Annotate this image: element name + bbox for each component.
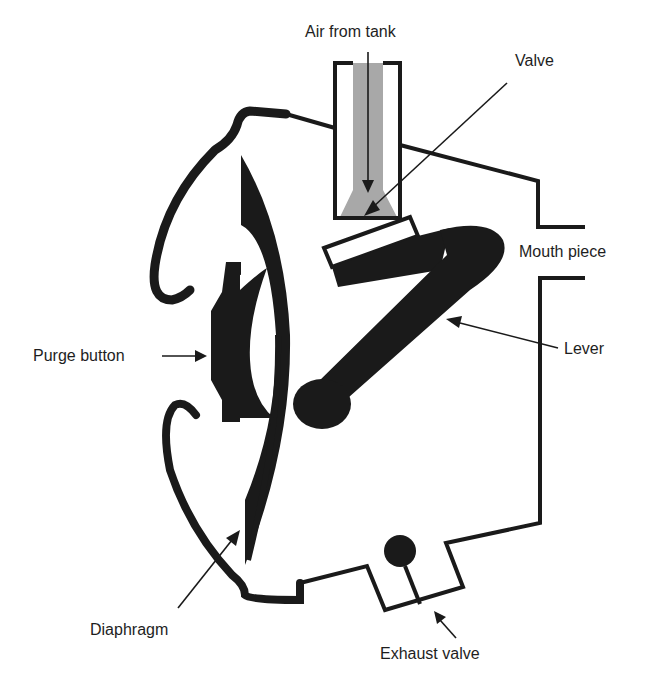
label-diaphragm: Diaphragm xyxy=(90,622,168,638)
housing-shell-top xyxy=(154,111,286,300)
label-mouth-piece: Mouth piece xyxy=(519,244,606,260)
label-purge-button: Purge button xyxy=(33,348,125,364)
purge-button xyxy=(211,262,274,422)
label-lever: Lever xyxy=(564,341,604,357)
label-exhaust-valve: Exhaust valve xyxy=(380,646,480,662)
exhaust-valve xyxy=(384,535,420,604)
regulator-diagram: Air from tank Valve Mouth piece Lever Pu… xyxy=(0,0,667,688)
housing xyxy=(286,114,585,610)
label-air-from-tank: Air from tank xyxy=(305,24,396,40)
label-valve: Valve xyxy=(515,53,554,69)
